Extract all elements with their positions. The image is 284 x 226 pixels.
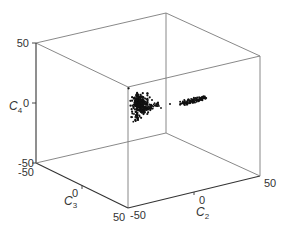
y-tick-50: 50 — [113, 211, 125, 223]
y-tick-minus50: -50 — [18, 166, 34, 178]
plot-box — [36, 13, 260, 208]
z-axis: 50 0 -50 C4 — [9, 37, 34, 169]
data-cluster-1 — [128, 87, 171, 122]
y-tick-0: 0 — [72, 187, 78, 199]
z-tick-50: 50 — [17, 37, 29, 49]
x-tick-minus50: -50 — [130, 209, 146, 221]
axis-ticks — [32, 43, 194, 195]
x-axis: -50 0 50 C2 — [130, 177, 276, 221]
x-tick-50: 50 — [264, 177, 276, 189]
z-tick-0: 0 — [23, 97, 29, 109]
z-axis-label: C4 — [9, 99, 23, 115]
y-axis: -50 0 50 C3 — [18, 166, 125, 223]
data-cluster-2 — [179, 95, 207, 106]
scatter-3d-plot: 50 0 -50 C4 -50 0 50 C3 -50 0 50 C2 — [0, 0, 284, 226]
x-axis-label: C2 — [196, 205, 210, 221]
